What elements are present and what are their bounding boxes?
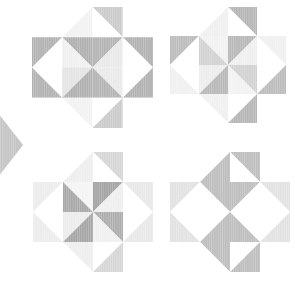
pinstripe-star-bottom-right — [170, 152, 290, 272]
pinstripe-star-top-right — [170, 7, 286, 123]
star-pattern-svg — [0, 0, 295, 290]
pinstripe-star-bottom-left — [33, 152, 153, 272]
pinstripe-star-top-left — [32, 7, 153, 128]
pattern-canvas-wrap — [0, 0, 295, 290]
